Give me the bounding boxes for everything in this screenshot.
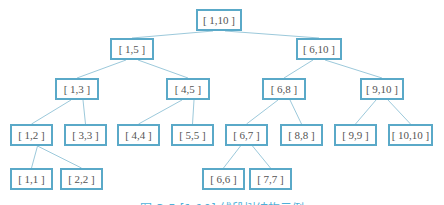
tree-edge bbox=[132, 31, 213, 38]
tree-edge bbox=[247, 100, 279, 124]
tree-edge bbox=[32, 100, 72, 124]
tree-node: [ 2,2 ] bbox=[60, 168, 103, 190]
tree-node: [ 1,2 ] bbox=[10, 124, 53, 146]
tree-node: [ 4,5 ] bbox=[166, 78, 210, 100]
tree-node: [ 1,5 ] bbox=[110, 38, 154, 60]
tree-node: [ 1,10 ] bbox=[196, 9, 242, 31]
tree-edge bbox=[83, 100, 86, 124]
tree-edge bbox=[138, 60, 188, 78]
tree-node: [ 9,9 ] bbox=[334, 124, 377, 146]
tree-edge bbox=[224, 146, 241, 168]
tree-node: [ 5,5 ] bbox=[171, 124, 214, 146]
tree-edge bbox=[284, 60, 313, 78]
tree-node: [ 6,6 ] bbox=[202, 168, 245, 190]
tree-node: [ 8,8 ] bbox=[280, 124, 323, 146]
figure-caption: 图 3-5 [1,10] 线段树结构示例 bbox=[0, 199, 444, 205]
tree-edge bbox=[193, 100, 195, 124]
tree-node: [ 6,7 ] bbox=[225, 124, 268, 146]
tree-node: [ 7,7 ] bbox=[249, 168, 292, 190]
tree-node: [ 9,10 ] bbox=[360, 78, 404, 100]
tree-node: [ 10,10 ] bbox=[388, 124, 433, 146]
tree-edge bbox=[38, 146, 82, 168]
tree-node: [ 1,1 ] bbox=[10, 168, 53, 190]
tree-edge bbox=[388, 100, 411, 124]
tree-edge bbox=[77, 60, 126, 78]
tree-node: [ 3,3 ] bbox=[64, 124, 107, 146]
tree-edge bbox=[139, 100, 183, 124]
tree-edge bbox=[356, 100, 377, 124]
tree-edge bbox=[32, 146, 38, 168]
tree-edge bbox=[325, 60, 382, 78]
tree-node: [ 4,4 ] bbox=[117, 124, 160, 146]
tree-edge bbox=[225, 31, 319, 38]
tree-edge bbox=[253, 146, 271, 168]
tree-node: [ 6,10 ] bbox=[296, 38, 342, 60]
tree-node: [ 1,3 ] bbox=[55, 78, 99, 100]
tree-edge bbox=[290, 100, 302, 124]
tree-node: [ 6,8 ] bbox=[262, 78, 306, 100]
